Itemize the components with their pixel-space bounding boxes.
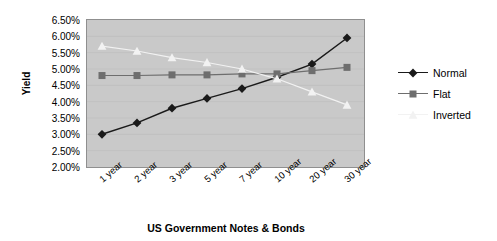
y-axis-tick-label: 6.00% [24, 31, 80, 42]
chart-legend: NormalFlatInverted [398, 62, 494, 125]
legend-marker-square-icon [398, 87, 428, 101]
legend-marker-diamond-icon [398, 66, 428, 80]
legend-label: Flat [428, 88, 451, 100]
legend-item-normal[interactable]: Normal [398, 62, 494, 83]
data-point-marker [134, 72, 141, 79]
x-axis-tick-labels: 1 year2 year3 year5 year7 year10 year20 … [86, 168, 376, 216]
x-axis-title: US Government Notes & Bonds [86, 222, 366, 234]
legend-label: Inverted [428, 109, 471, 121]
data-point-marker [409, 110, 418, 118]
data-point-marker [168, 104, 177, 113]
y-axis-tick-label: 4.00% [24, 97, 80, 108]
data-point-marker [344, 64, 351, 71]
legend-key-inverted [398, 108, 428, 122]
legend-marker-triangle-icon [398, 108, 428, 122]
legend-key-normal [398, 66, 428, 80]
y-axis-tick-label: 5.50% [24, 48, 80, 59]
legend-item-flat[interactable]: Flat [398, 83, 494, 104]
data-point-marker [98, 42, 107, 50]
y-axis-tick-label: 3.50% [24, 113, 80, 124]
data-point-marker [98, 130, 107, 139]
y-axis-tick-label: 3.00% [24, 129, 80, 140]
y-axis-tick-label: 2.50% [24, 146, 80, 157]
data-point-marker [169, 71, 176, 78]
legend-label: Normal [428, 67, 467, 79]
data-point-marker [204, 71, 211, 78]
yield-curve-chart: Yield 6.50%6.00%5.50%5.00%4.50%4.00%3.50… [0, 0, 497, 241]
y-axis-tick-label: 2.00% [24, 162, 80, 173]
data-point-marker [133, 119, 142, 128]
data-point-marker [409, 68, 418, 77]
legend-item-inverted[interactable]: Inverted [398, 104, 494, 125]
y-axis-tick-label: 4.50% [24, 80, 80, 91]
legend-key-flat [398, 87, 428, 101]
y-axis-tick-labels: 6.50%6.00%5.50%5.00%4.50%4.00%3.50%3.00%… [24, 13, 80, 175]
data-point-marker [410, 90, 417, 97]
plot-svg [87, 20, 364, 167]
y-axis-tick-label: 6.50% [24, 15, 80, 26]
data-point-marker [99, 72, 106, 79]
plot-area [86, 19, 365, 168]
y-axis-tick-label: 5.00% [24, 64, 80, 75]
data-point-marker [308, 87, 317, 95]
data-point-marker [309, 67, 316, 74]
